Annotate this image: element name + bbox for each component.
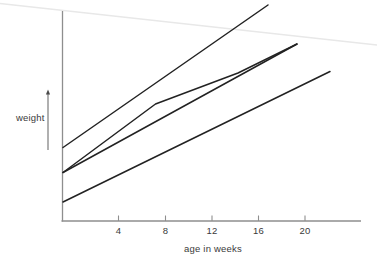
x-tick-label-4: 4 — [116, 225, 121, 236]
x-axis-title: age in weeks — [184, 243, 242, 254]
chart-figure: 4 8 12 16 20 age in weeks weight — [0, 0, 377, 267]
data-line-curve-3 — [63, 44, 297, 173]
page-edge-artifact-line — [0, 4, 377, 46]
chart-plot-area — [0, 0, 377, 267]
weight-axis-arrow — [46, 90, 50, 151]
y-axis-title: weight — [16, 112, 45, 123]
x-tick-label-16: 16 — [253, 225, 264, 236]
x-tick-label-8: 8 — [163, 225, 168, 236]
x-axis-ticks — [119, 216, 306, 222]
data-line-curve-4 — [63, 72, 330, 203]
x-tick-label-12: 12 — [207, 225, 218, 236]
x-tick-label-20: 20 — [300, 225, 311, 236]
